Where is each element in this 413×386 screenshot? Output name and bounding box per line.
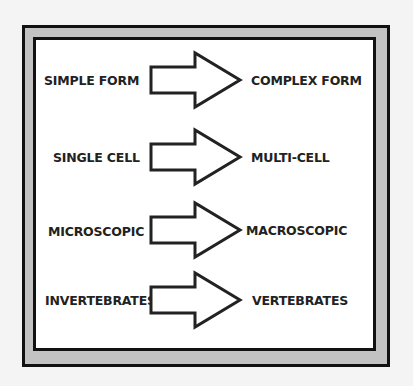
row-2-to-label: MULTI-CELL [251,150,330,165]
right-arrow-icon [148,270,244,330]
row-4-from-label: INVERTEBRATES [45,293,156,308]
right-arrow-icon [148,200,244,260]
row-3-to-label: MACROSCOPIC [246,223,347,238]
row-1-from-label: SIMPLE FORM [44,73,139,88]
row-2-from-label: SINGLE CELL [53,150,140,165]
row-3-from-label: MICROSCOPIC [48,224,144,239]
row-4-to-label: VERTEBRATES [252,293,348,308]
right-arrow-icon [148,127,244,187]
row-1-to-label: COMPLEX FORM [251,73,362,88]
right-arrow-icon [148,50,244,110]
